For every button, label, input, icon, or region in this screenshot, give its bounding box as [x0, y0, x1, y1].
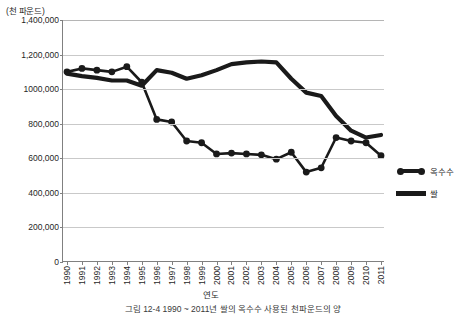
x-axis-tick-label: 2000: [213, 266, 222, 285]
x-axis-tick-label: 2005: [287, 266, 296, 285]
gridline: [63, 55, 384, 56]
x-tick-mark: [291, 261, 292, 265]
x-axis-tick-label: 1999: [198, 266, 207, 285]
gridline: [63, 20, 384, 21]
data-point-marker: [303, 169, 310, 176]
y-tick-mark: [60, 55, 63, 56]
x-axis-tick-label: 2006: [302, 266, 311, 285]
x-tick-mark: [336, 261, 337, 265]
x-axis-title: 연도: [203, 288, 219, 300]
x-axis-tick-label: 2007: [317, 266, 326, 285]
x-tick-mark: [366, 261, 367, 265]
x-tick-mark: [187, 261, 188, 265]
x-axis-tick-label: 1993: [108, 266, 117, 285]
gridline: [63, 193, 384, 194]
x-tick-mark: [351, 261, 352, 265]
x-tick-mark: [246, 261, 247, 265]
x-axis-tick-label: 1996: [153, 266, 162, 285]
y-tick-mark: [60, 89, 63, 90]
x-tick-mark: [67, 261, 68, 265]
legend-label: 옥수수: [430, 165, 454, 177]
x-tick-mark: [231, 261, 232, 265]
series-layer: [63, 20, 385, 262]
data-point-marker: [123, 63, 130, 70]
x-axis-tick-label: 2010: [362, 266, 371, 285]
y-axis-tick-label: 1000,000: [24, 85, 59, 94]
y-axis-tick-label: 800,000: [28, 119, 59, 128]
figure-caption: 그림 12-4 1990 ~ 2011년 쌀의 옥수수 사용된 천파운드의 양: [0, 302, 466, 314]
x-axis-tick-label: 2004: [272, 266, 281, 285]
data-point-marker: [183, 138, 190, 145]
x-axis-tick-label: 2001: [227, 266, 236, 285]
x-axis-tick-label: 2011: [377, 266, 386, 284]
x-axis-tick-label: 1994: [123, 266, 132, 285]
data-point-marker: [258, 151, 265, 158]
data-point-marker: [348, 138, 355, 145]
x-tick-mark: [112, 261, 113, 265]
y-tick-mark: [60, 193, 63, 194]
x-tick-mark: [306, 261, 307, 265]
gridline: [63, 124, 384, 125]
x-tick-mark: [217, 261, 218, 265]
data-point-marker: [108, 68, 115, 75]
y-tick-mark: [60, 262, 63, 263]
y-axis-tick-label: 200,000: [28, 223, 59, 232]
data-point-marker: [79, 65, 86, 72]
x-axis-tick-label: 1990: [63, 266, 72, 285]
y-axis-tick-label: 0: [54, 258, 59, 267]
gridline: [63, 89, 384, 90]
x-tick-mark: [142, 261, 143, 265]
data-point-marker: [153, 116, 160, 123]
data-point-marker: [318, 164, 325, 171]
legend-label: 쌀: [430, 187, 438, 199]
x-axis-tick-label: 1998: [183, 266, 192, 285]
data-point-marker: [288, 149, 295, 156]
data-point-marker: [243, 151, 250, 158]
y-tick-mark: [60, 124, 63, 125]
chart-legend: 옥수수쌀: [396, 160, 466, 204]
x-axis-tick-label: 1992: [93, 266, 102, 285]
legend-swatch-icon: [396, 186, 426, 200]
y-axis-tick-label: 600,000: [28, 154, 59, 163]
data-point-marker: [333, 134, 340, 141]
x-axis-tick-label: 2002: [242, 266, 251, 285]
x-axis-tick-label: 1995: [138, 266, 147, 285]
legend-swatch-icon: [396, 164, 426, 178]
x-tick-mark: [97, 261, 98, 265]
data-point-marker: [94, 67, 101, 74]
y-axis-tick-label: 400,000: [28, 189, 59, 198]
data-point-marker: [363, 139, 370, 146]
x-axis-tick-label: 2003: [257, 266, 266, 285]
x-axis-tick-label: 2008: [332, 266, 341, 285]
y-axis-tick-label: 1,200,000: [21, 50, 59, 59]
x-axis-tick-label: 1997: [168, 266, 177, 285]
gridline: [63, 158, 384, 159]
x-tick-mark: [172, 261, 173, 265]
plot-area: 0200,000400,000600,000800,0001000,0001,2…: [62, 20, 384, 262]
data-point-marker: [228, 150, 235, 157]
legend-item-2[interactable]: 쌀: [396, 182, 466, 204]
x-axis-tick-label: 2009: [347, 266, 356, 285]
x-tick-mark: [202, 261, 203, 265]
y-tick-mark: [60, 227, 63, 228]
y-tick-mark: [60, 158, 63, 159]
y-axis-tick-label: 1,400,000: [21, 16, 59, 25]
legend-item-1[interactable]: 옥수수: [396, 160, 466, 182]
x-tick-mark: [381, 261, 382, 265]
gridline: [63, 227, 384, 228]
x-tick-mark: [321, 261, 322, 265]
x-tick-mark: [261, 261, 262, 265]
x-tick-mark: [82, 261, 83, 265]
data-point-marker: [198, 139, 205, 146]
data-point-marker: [213, 151, 220, 158]
x-tick-mark: [276, 261, 277, 265]
x-tick-mark: [127, 261, 128, 265]
x-axis-tick-label: 1991: [78, 266, 87, 285]
x-tick-mark: [157, 261, 158, 265]
y-tick-mark: [60, 20, 63, 21]
